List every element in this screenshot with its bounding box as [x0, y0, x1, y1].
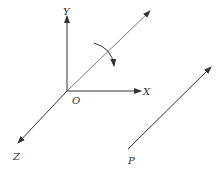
- point-p-label: P: [127, 155, 135, 166]
- parallel-vector-p: [128, 67, 211, 149]
- origin-label: O: [72, 95, 80, 106]
- x-axis-label: X: [142, 86, 151, 97]
- y-axis-label: Y: [63, 6, 71, 17]
- z-axis: [18, 91, 67, 143]
- coordinate-diagram: Y X Z O P: [0, 0, 219, 172]
- z-axis-label: Z: [12, 151, 21, 162]
- rotation-axis: [67, 11, 150, 91]
